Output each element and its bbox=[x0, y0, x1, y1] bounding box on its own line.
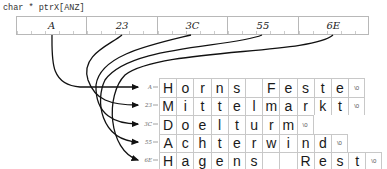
char-cell: o bbox=[176, 115, 193, 134]
char-cell: t bbox=[314, 78, 331, 97]
char-cell: e bbox=[279, 78, 296, 97]
string-memory-grid: H o r n s F e s t e \0 M i t t e l m a r… bbox=[159, 78, 382, 169]
char-cell: a bbox=[279, 97, 296, 116]
null-terminator-cell: \0 bbox=[348, 78, 365, 97]
char-cell: m bbox=[279, 115, 296, 134]
char-cell: e bbox=[228, 97, 245, 116]
char-cell: m bbox=[262, 97, 279, 116]
char-cell: l bbox=[245, 97, 262, 116]
char-cell: e bbox=[314, 152, 331, 169]
null-terminator-cell: \0 bbox=[331, 134, 348, 153]
char-cell bbox=[262, 152, 279, 169]
char-cell: r bbox=[193, 78, 210, 97]
char-cell: r bbox=[297, 97, 314, 116]
char-cell: o bbox=[176, 78, 193, 97]
char-cell: t bbox=[348, 152, 365, 169]
string-row-1: M i t t e l m a r k t \0 bbox=[159, 97, 382, 116]
char-cell: e bbox=[331, 78, 348, 97]
address-label-55: 55 bbox=[138, 139, 152, 145]
char-cell: a bbox=[176, 152, 193, 169]
char-cell: l bbox=[211, 115, 228, 134]
null-terminator-cell: \0 bbox=[297, 115, 314, 134]
char-cell: n bbox=[297, 134, 314, 153]
address-label-a: A bbox=[138, 84, 152, 90]
char-cell: s bbox=[331, 152, 348, 169]
char-cell: g bbox=[193, 152, 210, 169]
char-cell: c bbox=[176, 134, 193, 153]
address-label-3c: 3C bbox=[138, 121, 152, 127]
char-cell: e bbox=[211, 152, 228, 169]
char-cell: s bbox=[297, 78, 314, 97]
char-cell: e bbox=[193, 115, 210, 134]
string-row-3: A c h t e r w i n d \0 bbox=[159, 134, 382, 153]
char-cell: k bbox=[314, 97, 331, 116]
char-cell: s bbox=[245, 152, 262, 169]
char-cell: n bbox=[228, 152, 245, 169]
char-cell: t bbox=[211, 134, 228, 153]
address-label-23: 23 bbox=[138, 102, 152, 108]
arrow-to-row-23 bbox=[87, 35, 138, 105]
string-row-4: H a g e n s R e s t \0 bbox=[159, 152, 382, 169]
char-cell: H bbox=[159, 78, 176, 97]
char-cell: i bbox=[176, 97, 193, 116]
char-cell: A bbox=[159, 134, 176, 153]
char-cell: H bbox=[159, 152, 176, 169]
char-cell: M bbox=[159, 97, 176, 116]
arrow-to-row-a bbox=[52, 35, 138, 87]
char-cell: t bbox=[193, 97, 210, 116]
char-cell: s bbox=[228, 78, 245, 97]
char-cell: n bbox=[211, 78, 228, 97]
char-cell: u bbox=[245, 115, 262, 134]
char-cell: i bbox=[279, 134, 296, 153]
char-cell: D bbox=[159, 115, 176, 134]
char-cell: t bbox=[331, 97, 348, 116]
char-cell: R bbox=[297, 152, 314, 169]
char-cell: d bbox=[314, 134, 331, 153]
null-terminator-cell: \0 bbox=[365, 152, 382, 169]
char-cell bbox=[279, 152, 296, 169]
char-cell: t bbox=[228, 115, 245, 134]
char-cell: e bbox=[228, 134, 245, 153]
null-terminator-cell: \0 bbox=[348, 97, 365, 116]
string-row-2: D o e l t u r m \0 bbox=[159, 115, 382, 134]
address-label-6e: 6E bbox=[138, 157, 152, 163]
char-cell: h bbox=[193, 134, 210, 153]
char-cell: F bbox=[262, 78, 279, 97]
char-cell: t bbox=[211, 97, 228, 116]
char-cell: r bbox=[262, 115, 279, 134]
char-cell: w bbox=[262, 134, 279, 153]
char-cell: r bbox=[245, 134, 262, 153]
char-cell bbox=[245, 78, 262, 97]
string-row-0: H o r n s F e s t e \0 bbox=[159, 78, 382, 97]
